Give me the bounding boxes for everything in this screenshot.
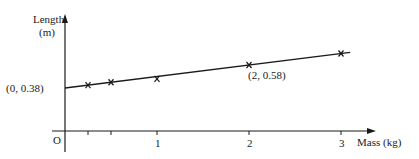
best-fit-line — [65, 52, 350, 88]
x-tick-label-2: 2 — [247, 137, 253, 149]
y-axis-label-line1: Length — [33, 13, 64, 25]
y-axis-label-line2: (m) — [39, 26, 55, 38]
intercept-annotation: (0, 0.38) — [6, 82, 44, 94]
x-axis-label: Mass (kg) — [357, 136, 401, 148]
x-axis-ticks — [88, 131, 341, 135]
origin-label: O — [53, 134, 61, 146]
point-annotation: (2, 0.58) — [248, 69, 286, 81]
x-tick-label-3: 3 — [339, 137, 345, 149]
x-tick-label-1: 1 — [155, 137, 161, 149]
x-axis-arrow-icon — [367, 128, 376, 134]
